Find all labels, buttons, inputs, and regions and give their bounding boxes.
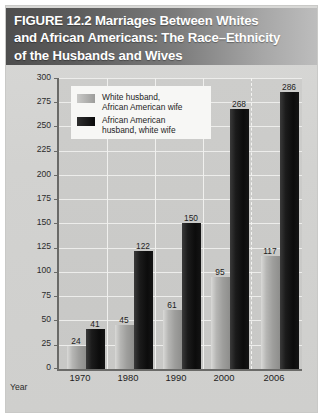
legend-label-white-husband: White husband, African American wife xyxy=(102,92,183,112)
legend-swatch-icon-white-husband xyxy=(77,94,95,103)
bar-1970-white-husband[interactable] xyxy=(67,346,87,369)
y-tick-mark-0 xyxy=(54,368,59,369)
x-tick-label-1980: 1980 xyxy=(106,372,150,383)
y-tick-label-300: 300 xyxy=(25,73,51,82)
y-tick-mark-150 xyxy=(54,223,59,224)
y-tick-mark-200 xyxy=(54,175,59,176)
y-tick-mark-250 xyxy=(54,126,59,127)
bar-1990-white-husband[interactable] xyxy=(163,310,183,369)
bar-1990-african-american-husband[interactable] xyxy=(182,223,201,369)
figure-title-line-1: FIGURE 12.2 Marriages Between Whites xyxy=(14,13,259,28)
bar-2000-african-american-husband[interactable] xyxy=(230,109,249,369)
x-tick-label-1990: 1990 xyxy=(154,372,198,383)
gridline-150 xyxy=(59,223,302,224)
x-tick-label-2006: 2006 xyxy=(252,372,296,383)
figure-title-text: FIGURE 12.2 Marriages Between Whites and… xyxy=(14,12,314,64)
bar-2006-african-american-husband[interactable] xyxy=(280,92,299,369)
y-tick-mark-100 xyxy=(54,272,59,273)
bar-2000-white-husband[interactable] xyxy=(211,277,231,369)
y-tick-mark-125 xyxy=(54,248,59,249)
gridline-225 xyxy=(59,151,302,152)
y-tick-mark-75 xyxy=(54,296,59,297)
y-tick-label-200: 200 xyxy=(25,170,51,179)
y-tick-label-150: 150 xyxy=(25,218,51,227)
y-tick-mark-300 xyxy=(54,78,59,79)
bar-value-2000-white-husband: 95 xyxy=(203,267,237,277)
y-tick-mark-50 xyxy=(54,320,59,321)
bar-1980-african-american-husband[interactable] xyxy=(134,251,153,369)
y-tick-label-175: 175 xyxy=(25,194,51,203)
legend-item-white-husband[interactable]: White husband, African American wife xyxy=(77,92,183,112)
bar-value-1990-white-husband: 61 xyxy=(155,300,189,310)
bar-value-1990-african-american-husband: 150 xyxy=(174,213,208,223)
bar-value-2000-african-american-husband: 268 xyxy=(222,99,256,109)
y-tick-label-250: 250 xyxy=(25,121,51,130)
y-tick-label-0: 0 xyxy=(25,363,51,372)
figure-container: FIGURE 12.2 Marriages Between Whites and… xyxy=(0,0,323,418)
y-tick-label-125: 125 xyxy=(25,242,51,251)
figure-title-banner: FIGURE 12.2 Marriages Between Whites and… xyxy=(6,8,317,65)
bar-2006-white-husband[interactable] xyxy=(261,256,281,369)
legend-swatch-icon-african-american-husband xyxy=(77,117,95,126)
legend-item-african-american-husband[interactable]: African American husband, white wife xyxy=(77,115,176,135)
bar-1980-white-husband[interactable] xyxy=(115,325,135,369)
bar-value-1980-african-american-husband: 122 xyxy=(126,241,160,251)
y-tick-label-50: 50 xyxy=(25,315,51,324)
chart-legend: White husband, African American wife Afr… xyxy=(71,86,211,139)
bar-1970-african-american-husband[interactable] xyxy=(86,329,105,369)
y-tick-label-100: 100 xyxy=(25,266,51,275)
bar-value-1970-white-husband: 24 xyxy=(59,336,93,346)
chart-area: Total in Thousands Year 300 275 250 225 … xyxy=(6,65,317,412)
figure-title-line-2: and African Americans: The Race–Ethnicit… xyxy=(14,30,280,45)
bar-value-1980-white-husband: 45 xyxy=(107,315,141,325)
y-tick-label-275: 275 xyxy=(25,97,51,106)
figure-plate: FIGURE 12.2 Marriages Between Whites and… xyxy=(6,6,317,412)
plot-area: 24 41 45 122 61 150 95 268 xyxy=(57,78,302,371)
x-tick-label-1970: 1970 xyxy=(58,372,102,383)
x-axis-title: Year xyxy=(10,382,27,392)
figure-title-line-3: of the Husbands and Wives xyxy=(14,48,182,63)
legend-label-african-american-husband: African American husband, white wife xyxy=(102,115,176,135)
y-tick-mark-275 xyxy=(54,102,59,103)
y-tick-mark-175 xyxy=(54,199,59,200)
y-tick-mark-225 xyxy=(54,151,59,152)
group-separator-dashed xyxy=(251,78,252,369)
y-tick-label-75: 75 xyxy=(25,291,51,300)
y-tick-label-225: 225 xyxy=(25,145,51,154)
gridline-200 xyxy=(59,175,302,176)
gridline-300 xyxy=(59,78,302,79)
bar-value-2006-white-husband: 117 xyxy=(253,246,287,256)
bar-value-2006-african-american-husband: 286 xyxy=(272,82,306,92)
x-tick-label-2000: 2000 xyxy=(202,372,246,383)
gridline-175 xyxy=(59,199,302,200)
y-tick-label-25: 25 xyxy=(25,339,51,348)
